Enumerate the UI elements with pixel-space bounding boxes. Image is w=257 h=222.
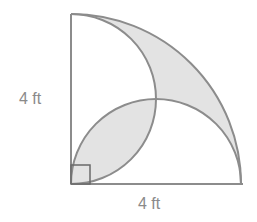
geometry-figure <box>0 0 257 222</box>
vertical-side-label: 4 ft <box>19 90 41 108</box>
horizontal-side-label: 4 ft <box>138 195 160 213</box>
